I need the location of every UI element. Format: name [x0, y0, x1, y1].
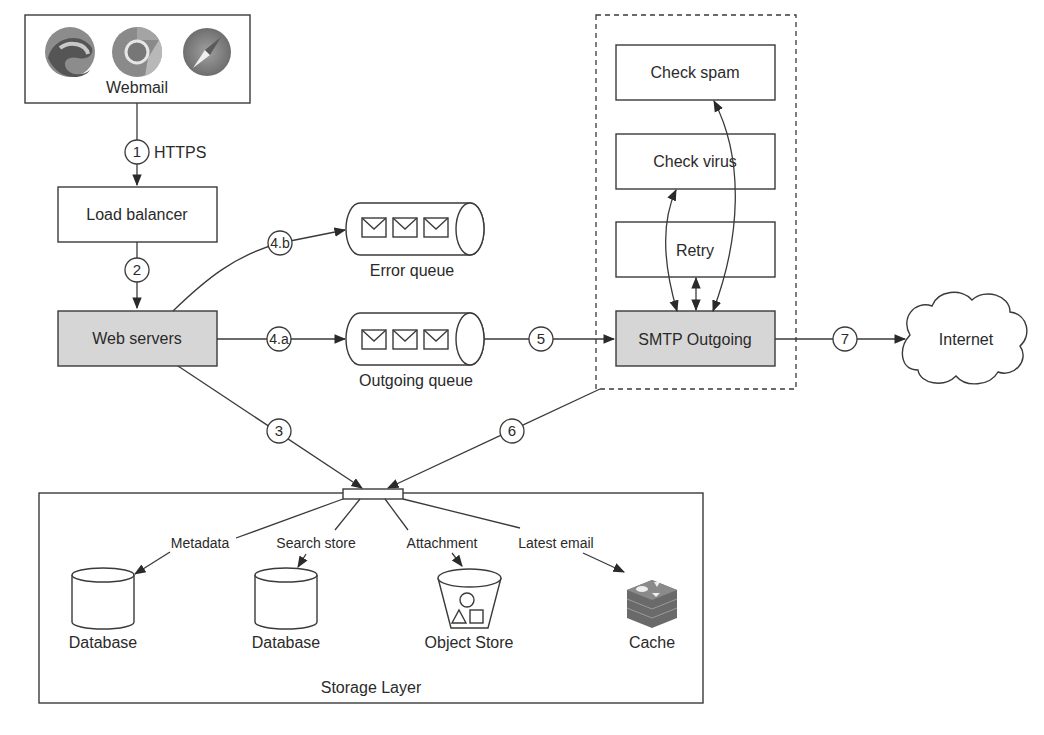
- step-7-number: 7: [841, 330, 849, 347]
- web-servers-label: Web servers: [92, 330, 182, 347]
- outgoing-queue-node: Outgoing queue: [346, 313, 484, 389]
- internet-label: Internet: [939, 331, 994, 348]
- envelope-icon: [362, 218, 448, 237]
- object-store-label: Object Store: [425, 634, 514, 651]
- step-5-number: 5: [537, 330, 545, 347]
- storage-layer-title: Storage Layer: [321, 679, 422, 696]
- web-servers-node: Web servers: [58, 311, 217, 366]
- database-icon: [72, 568, 134, 629]
- search-store-label: Search store: [276, 535, 356, 551]
- edge-smtp-check-spam: [713, 101, 735, 311]
- check-spam-node: Check spam: [616, 45, 775, 100]
- database-search-label: Database: [252, 634, 321, 651]
- check-spam-label: Check spam: [651, 64, 740, 81]
- attachment-label: Attachment: [407, 535, 478, 551]
- step-4b-number: 4.b: [270, 235, 290, 251]
- error-queue-node: Error queue: [346, 203, 484, 279]
- webmail-label: Webmail: [106, 79, 168, 96]
- error-queue-label: Error queue: [370, 262, 455, 279]
- latest-email-label: Latest email: [518, 535, 593, 551]
- edge-browser-icon: [45, 27, 95, 77]
- step-2-number: 2: [133, 261, 141, 278]
- metadata-label: Metadata: [171, 535, 230, 551]
- email-architecture-diagram: Webmail 1 HTTPS Load balancer 2 Web serv…: [0, 0, 1044, 735]
- load-balancer-node: Load balancer: [58, 187, 217, 242]
- storage-connector: [343, 489, 403, 499]
- safari-browser-icon: [183, 28, 231, 76]
- step-6-number: 6: [508, 422, 516, 439]
- step-4a-number: 4.a: [269, 331, 289, 347]
- check-virus-label: Check virus: [653, 153, 737, 170]
- outgoing-queue-label: Outgoing queue: [359, 372, 473, 389]
- step-1-number: 1: [133, 143, 141, 160]
- step-3-number: 3: [275, 422, 283, 439]
- edge-smtp-to-storage: [388, 389, 600, 488]
- load-balancer-label: Load balancer: [86, 206, 188, 223]
- database-icon: [255, 568, 317, 629]
- check-virus-node: Check virus: [616, 134, 775, 189]
- database-metadata-label: Database: [69, 634, 138, 651]
- retry-node: Retry: [616, 222, 775, 277]
- storage-layer: Storage Layer Metadata Search store Atta…: [39, 489, 703, 703]
- retry-label: Retry: [676, 242, 714, 259]
- smtp-outgoing-node: SMTP Outgoing: [616, 311, 775, 366]
- chrome-browser-icon: [112, 27, 162, 77]
- envelope-icon: [362, 330, 448, 349]
- https-label: HTTPS: [154, 144, 206, 161]
- cache-label: Cache: [629, 634, 675, 651]
- smtp-outgoing-label: SMTP Outgoing: [638, 331, 752, 348]
- internet-node: Internet: [902, 292, 1026, 384]
- redis-cache-icon: [627, 580, 677, 628]
- webmail-node: Webmail: [25, 15, 250, 103]
